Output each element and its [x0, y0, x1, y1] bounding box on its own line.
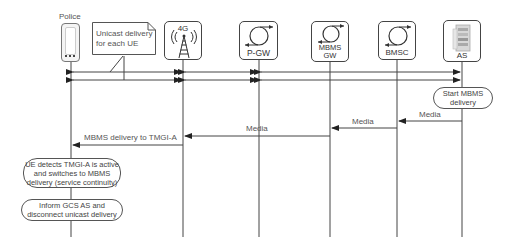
message-label-media-bmsc-mbmsgw: Media — [352, 117, 374, 126]
actor-bmsc: BMSC — [378, 21, 416, 60]
actor-label-pgw: P-GW — [240, 49, 277, 57]
action-text: delivery (service continuity) — [27, 178, 117, 187]
action-start-mbms-delivery: Start MBMS delivery — [433, 87, 493, 109]
message-label-media-mbmsgw-4g: Media — [246, 124, 268, 133]
actor-label-bmsc: BMSC — [379, 49, 415, 57]
message-label-mbms-delivery: MBMS delivery to TMGI-A — [84, 133, 177, 142]
action-text: and switches to MBMS — [34, 169, 110, 178]
actor-pgw: P-GW — [239, 21, 278, 60]
unicast-note: Unicast delivery for each UE — [92, 22, 156, 55]
actor-4g: 4G — [164, 21, 202, 60]
cell-tower-icon — [165, 22, 203, 61]
message-label-media-as-bmsc: Media — [419, 110, 441, 119]
note-text-line1: Unicast delivery — [96, 29, 152, 39]
actor-mbmsgw: MBMS GW — [311, 21, 349, 62]
phone-icon — [61, 23, 80, 62]
action-inform-gcs-as: Inform GCS AS and disconnect unicast del… — [21, 199, 123, 221]
action-text: Inform GCS AS and — [39, 201, 105, 210]
action-ue-detects-tmgi: UE detects TMGI-A is active and switches… — [23, 158, 121, 188]
actor-label-mbmsgw-line2: GW — [312, 52, 348, 60]
action-text: delivery — [450, 98, 476, 107]
action-text: disconnect unicast delivery — [27, 210, 117, 219]
actor-label-as: AS — [444, 52, 480, 60]
actor-label-police: Police — [59, 12, 81, 21]
note-text-line2: for each UE — [96, 39, 138, 49]
actor-as: AS — [443, 20, 481, 62]
action-text: UE detects TMGI-A is active — [25, 160, 119, 169]
action-text: Start MBMS — [443, 89, 483, 98]
